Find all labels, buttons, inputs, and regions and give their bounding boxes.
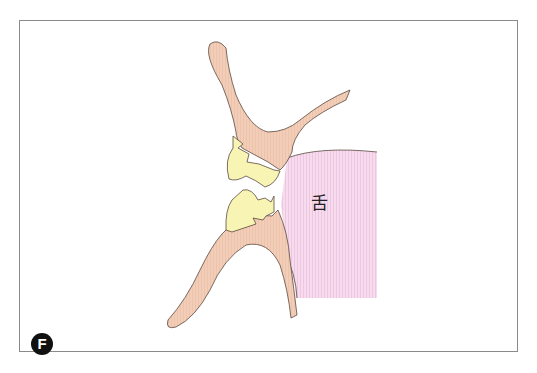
panel-label-badge: F bbox=[31, 333, 53, 355]
anatomy-illustration bbox=[0, 0, 537, 373]
tongue bbox=[281, 150, 377, 298]
tongue-label: 舌 bbox=[311, 189, 328, 214]
